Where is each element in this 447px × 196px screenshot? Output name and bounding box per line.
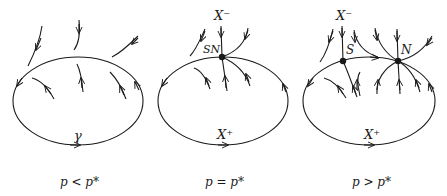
trajectory-arrow-icon xyxy=(416,80,419,88)
trajectory-arrow-icon xyxy=(206,78,209,86)
trajectory-arrow-icon xyxy=(377,80,378,90)
trajectory-arrow-icon xyxy=(225,76,226,88)
panel-p-equal: X⁻ SN X⁺ p = p* xyxy=(158,8,288,189)
x-plus-label: X⁺ xyxy=(216,127,233,142)
trajectory xyxy=(320,29,333,62)
trajectory-arrow-icon xyxy=(245,30,248,39)
orbit-arrow-icon xyxy=(162,78,167,86)
trajectory-arrow-icon xyxy=(45,86,51,94)
trajectory xyxy=(28,26,42,66)
panel-caption: p < p* xyxy=(60,175,99,189)
x-plus-label: X⁺ xyxy=(363,127,380,142)
trajectory xyxy=(324,78,346,98)
panel-p-less: γ p < p* xyxy=(13,20,143,189)
node-label: N xyxy=(400,43,412,57)
trajectory xyxy=(377,61,398,94)
trajectory-arrow-icon xyxy=(338,86,343,94)
orbit-arrow-icon xyxy=(17,78,22,86)
trajectory-arrow-icon xyxy=(120,86,124,95)
saddle-label: S xyxy=(346,43,354,57)
trajectory xyxy=(354,30,378,57)
trajectory-arrow-icon xyxy=(353,86,356,94)
trajectory xyxy=(32,78,54,99)
panel-p-greater: X⁻ S N X⁺ p > p* xyxy=(303,8,435,189)
orbit-label: γ xyxy=(74,128,82,143)
panel-caption: p > p* xyxy=(352,175,391,189)
trajectory xyxy=(358,72,360,96)
x-minus-label: X⁻ xyxy=(213,8,230,23)
trajectory-arrow-icon xyxy=(329,31,333,42)
sn-label: SN xyxy=(203,43,221,56)
trajectory xyxy=(194,68,210,89)
trajectory xyxy=(222,57,250,86)
trajectory xyxy=(112,36,138,57)
trajectory xyxy=(375,28,398,61)
panel-caption: p = p* xyxy=(205,175,244,189)
trajectory xyxy=(222,28,248,57)
orbit-arrow-icon xyxy=(135,82,139,90)
x-minus-label: X⁻ xyxy=(335,8,352,23)
bifurcation-diagram: γ p < p* X⁻ SN X⁺ p = p* xyxy=(0,0,447,196)
